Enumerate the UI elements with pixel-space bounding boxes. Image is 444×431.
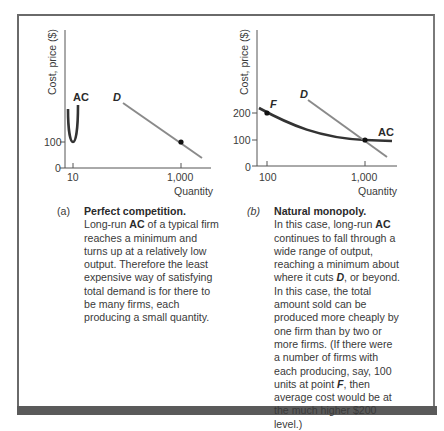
caption-a: (a) Perfect competition. Long-run AC of … bbox=[84, 205, 219, 325]
intersection-point bbox=[362, 137, 367, 142]
equilibrium-point bbox=[178, 139, 183, 144]
x-axis-label: Quantity bbox=[174, 185, 214, 197]
y-tick-label-0: 0 bbox=[55, 162, 61, 174]
y-tick-label-100: 100 bbox=[44, 136, 62, 148]
chart-perfect-competition: Cost, price ($) 100 0 10 1,000 Quantity … bbox=[44, 29, 214, 197]
demand-line bbox=[123, 103, 202, 158]
d-label: D bbox=[113, 91, 121, 103]
x-tick-label-1000: 1,000 bbox=[167, 171, 193, 183]
y-axis-label: Cost, price ($) bbox=[238, 29, 250, 95]
x-axis-label: Quantity bbox=[358, 185, 398, 197]
caption-body: In this case, long-run AC continues to f… bbox=[274, 218, 401, 431]
y-tick-label-100: 100 bbox=[233, 134, 251, 146]
caption-title: Perfect competition. bbox=[84, 205, 219, 218]
y-axis-label: Cost, price ($) bbox=[46, 29, 58, 95]
y-tick-label-200: 200 bbox=[233, 107, 251, 119]
x-tick-label-1000: 1,000 bbox=[351, 171, 377, 183]
chart-natural-monopoly: Cost, price ($) 200 100 0 100 1,000 Quan… bbox=[233, 29, 398, 197]
caption-tag: (a) bbox=[57, 205, 70, 218]
d-label: D bbox=[300, 88, 308, 100]
caption-tag: (b) bbox=[247, 205, 260, 218]
y-tick-label-0: 0 bbox=[245, 161, 251, 173]
x-tick-label-10: 10 bbox=[67, 171, 79, 183]
caption-b: (b) Natural monopoly. In this case, long… bbox=[274, 205, 401, 431]
caption-title: Natural monopoly. bbox=[274, 205, 401, 218]
f-label: F bbox=[270, 98, 277, 110]
x-tick-label-100: 100 bbox=[259, 171, 277, 183]
ac-curve bbox=[68, 105, 78, 142]
ac-label: AC bbox=[378, 126, 394, 138]
ac-label: AC bbox=[73, 91, 89, 103]
demand-line bbox=[308, 100, 387, 157]
caption-body: Long-run AC of a typical firm reaches a … bbox=[84, 218, 219, 324]
point-f bbox=[264, 110, 269, 115]
